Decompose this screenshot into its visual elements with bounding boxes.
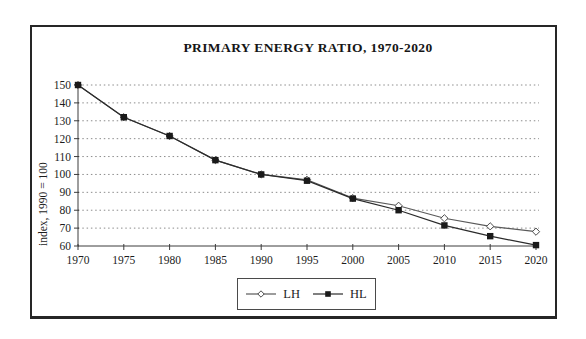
marker-diamond-icon: [258, 291, 264, 297]
marker-square-icon: [395, 207, 401, 213]
x-tick-label: 1995: [296, 254, 319, 266]
legend-marker-icon-HL: [313, 289, 343, 299]
chart-figure-frame: PRIMARY ENERGY RATIO, 1970-2020 index, 1…: [30, 25, 557, 319]
marker-square-icon: [533, 242, 539, 248]
x-tick-label: 1990: [250, 254, 273, 266]
series-line-LH: [78, 85, 536, 232]
y-tick-label: 150: [54, 79, 72, 91]
y-tick-label: 70: [60, 222, 72, 234]
y-tick-label: 130: [54, 115, 72, 127]
x-tick-label: 2015: [479, 254, 502, 266]
x-tick-label: 1985: [204, 254, 227, 266]
line-chart-plot-area: 6070809010011012013014015019701975198019…: [32, 27, 555, 316]
marker-square-icon: [441, 222, 447, 228]
legend-entry-HL: HL: [313, 287, 367, 302]
x-tick-label: 2005: [387, 254, 410, 266]
chart-legend: LHHL: [237, 278, 376, 310]
marker-diamond-icon: [441, 215, 448, 222]
legend-label-HL: HL: [350, 287, 367, 302]
marker-diamond-icon: [532, 228, 539, 235]
x-tick-label: 2020: [525, 254, 548, 266]
series-line-HL: [78, 85, 536, 245]
marker-square-icon: [258, 171, 264, 177]
y-tick-label: 60: [60, 240, 72, 252]
marker-square-icon: [487, 233, 493, 239]
marker-diamond-icon: [487, 223, 494, 230]
x-tick-label: 1975: [112, 254, 135, 266]
x-tick-label: 1980: [158, 254, 181, 266]
y-tick-label: 120: [54, 133, 72, 145]
x-tick-label: 2000: [341, 254, 364, 266]
legend-entry-LH: LH: [246, 287, 300, 302]
y-tick-label: 80: [60, 204, 72, 216]
legend-label-LH: LH: [283, 287, 300, 302]
y-tick-label: 140: [54, 97, 72, 109]
y-tick-label: 90: [60, 186, 72, 198]
marker-square-icon: [304, 178, 310, 184]
y-tick-label: 110: [54, 151, 71, 163]
marker-square-icon: [350, 195, 356, 201]
marker-square-icon: [75, 82, 81, 88]
x-tick-label: 1970: [67, 254, 90, 266]
legend-marker-icon-LH: [246, 289, 276, 299]
marker-square-icon: [212, 157, 218, 163]
y-tick-label: 100: [54, 168, 72, 180]
marker-square-icon: [166, 133, 172, 139]
marker-square-icon: [121, 114, 127, 120]
marker-square-icon: [325, 291, 331, 297]
x-tick-label: 2010: [433, 254, 456, 266]
